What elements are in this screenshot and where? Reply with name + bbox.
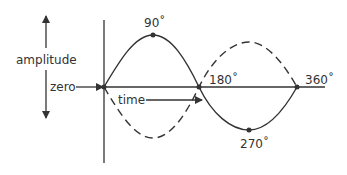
time-label: time [118, 94, 145, 106]
origin-dot [102, 85, 107, 90]
deg-360-label: 360˚ [305, 74, 334, 86]
peak-dot [151, 33, 156, 38]
deg-270-label: 270˚ [240, 138, 269, 150]
amplitude-label: amplitude [16, 54, 77, 66]
trough-dot [247, 128, 252, 133]
deg-180-label: 180˚ [209, 74, 238, 86]
zero-label: zero [50, 81, 76, 93]
deg-90-label: 90˚ [144, 17, 165, 29]
mid-dot [197, 85, 202, 90]
end-dot [295, 85, 300, 90]
